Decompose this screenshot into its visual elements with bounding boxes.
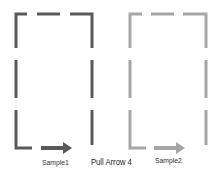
sample1-label: Sample1 <box>42 158 69 167</box>
sample2-arrow <box>154 142 185 154</box>
sample2-label: Sample2 <box>155 156 182 165</box>
sample1-frame <box>16 14 92 148</box>
arrow-head-icon <box>176 142 185 154</box>
frame-corner-top-left <box>16 14 27 48</box>
arrow-shaft <box>41 146 64 150</box>
frame-corner-top-right <box>183 14 206 48</box>
sample2-frame <box>130 14 206 148</box>
sample1-arrow <box>41 142 72 154</box>
diagram-caption: Pull Arrow 4 <box>91 157 132 167</box>
frame-corner-top-left <box>130 14 142 48</box>
frame-corner-top-right <box>70 14 92 48</box>
frame-corner-bottom-left <box>130 110 146 148</box>
arrow-head-icon <box>63 142 72 154</box>
diagram-canvas <box>0 0 220 176</box>
frame-corner-bottom-left <box>16 110 32 148</box>
arrow-shaft <box>154 146 177 150</box>
